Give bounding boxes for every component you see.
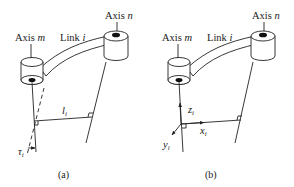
joint-cylinder-axis-m: [21, 58, 43, 85]
axis-n-line: [235, 62, 253, 143]
link-label: Link i: [60, 32, 85, 43]
common-normal-line: [34, 117, 92, 121]
z-axis-arrow: [180, 103, 181, 124]
joint-cylinder-axis-m: [168, 58, 190, 85]
link-parameters-diagram: Axis m Link i Axis n li τi (a): [0, 0, 294, 187]
right-angle-mark: [182, 124, 186, 128]
link-length-label: li: [62, 105, 67, 118]
caption-b: (b): [205, 169, 217, 181]
y-axis-label: yi: [162, 139, 170, 152]
z-axis-label: zi: [187, 104, 194, 117]
x-axis-arrow: [181, 123, 204, 125]
y-axis-arrow: [172, 124, 181, 135]
axis-n-line: [86, 62, 106, 143]
x-axis-label: xi: [199, 125, 207, 138]
panel-b: Axis m Link i Axis n zi xi yi (b): [162, 10, 280, 181]
axis-m-label: Axis m: [15, 32, 45, 43]
axis-n-label: Axis n: [105, 10, 133, 21]
joint-cylinder-axis-n: [251, 31, 275, 61]
axis-m-line: [32, 82, 36, 152]
axis-m-label: Axis m: [162, 32, 192, 43]
panel-a: Axis m Link i Axis n li τi (a): [15, 10, 133, 181]
joint-cylinder-axis-n: [104, 31, 128, 61]
caption-a: (a): [58, 169, 69, 181]
link-label: Link i: [207, 32, 232, 43]
twist-angle-label: τi: [18, 146, 24, 159]
axis-n-label: Axis n: [252, 10, 280, 21]
